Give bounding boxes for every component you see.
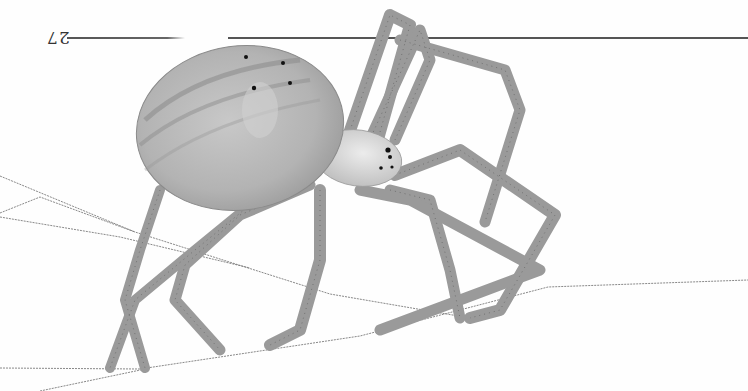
eye	[379, 166, 383, 170]
eye	[385, 147, 390, 152]
spider-illustration	[0, 0, 748, 391]
book-page: 27	[0, 0, 748, 391]
eye	[390, 165, 393, 168]
eye	[388, 155, 392, 159]
